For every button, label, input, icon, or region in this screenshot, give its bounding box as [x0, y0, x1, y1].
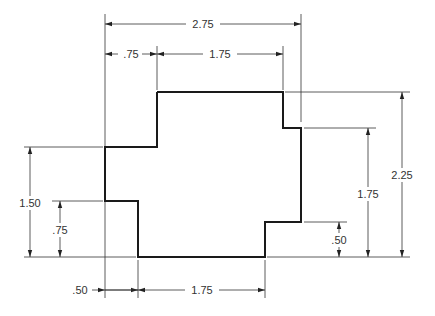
arrowhead-icon: [258, 288, 265, 292]
arrowhead-icon: [400, 250, 404, 257]
technical-drawing: 2.75 .75 1.75 1.50 .75 .50 1.75 2.25 .50…: [0, 0, 435, 316]
arrowhead-icon: [276, 52, 283, 56]
dim-label-bottom-left: .50: [72, 284, 87, 296]
arrowhead-icon: [337, 250, 341, 257]
part-outline: [105, 92, 301, 257]
dim-label-top-left: .75: [123, 48, 138, 60]
arrowhead-icon: [150, 52, 157, 56]
dim-label-right-mid: 1.75: [357, 188, 378, 200]
arrowhead-icon: [366, 250, 370, 257]
arrowhead-icon: [58, 250, 62, 257]
dim-label-left-inner: .75: [52, 224, 67, 236]
dim-label-right-overall: 2.25: [391, 169, 412, 181]
dim-label-left-outer: 1.50: [19, 197, 40, 209]
arrowhead-icon: [400, 92, 404, 99]
arrowhead-icon: [157, 52, 164, 56]
arrowhead-icon: [337, 222, 341, 229]
arrowhead-icon: [366, 128, 370, 135]
dimension-group: [28, 22, 404, 292]
dim-label-right-small: .50: [331, 234, 346, 246]
dim-label-top-right: 1.75: [209, 48, 230, 60]
dim-label-top-overall: 2.75: [192, 18, 213, 30]
arrowhead-icon: [58, 201, 62, 208]
arrowhead-icon: [28, 250, 32, 257]
arrowhead-icon: [98, 288, 105, 292]
arrowhead-icon: [138, 288, 145, 292]
arrowhead-icon: [105, 52, 112, 56]
dim-label-bottom-right: 1.75: [191, 284, 212, 296]
arrowhead-icon: [28, 147, 32, 154]
dimension-labels: 2.75 .75 1.75 1.50 .75 .50 1.75 2.25 .50…: [14, 17, 418, 297]
arrowhead-icon: [294, 22, 301, 26]
arrowhead-icon: [105, 22, 112, 26]
